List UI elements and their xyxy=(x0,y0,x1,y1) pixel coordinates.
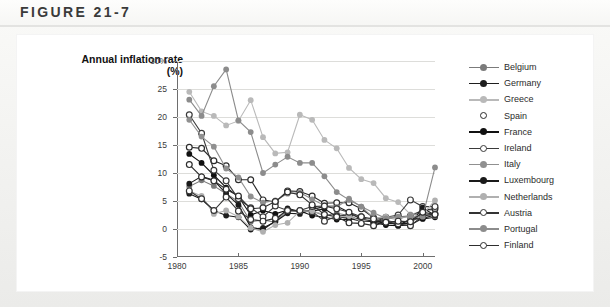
data-point xyxy=(371,210,377,216)
legend-dot xyxy=(480,80,487,87)
legend-item-france[interactable]: France xyxy=(469,124,589,140)
data-point xyxy=(322,137,328,143)
legend-marker-icon xyxy=(469,93,499,105)
data-point xyxy=(186,181,192,187)
data-point xyxy=(334,145,340,151)
legend-label: Germany xyxy=(504,78,541,88)
legend-dot xyxy=(480,209,487,216)
legend-item-finland[interactable]: Finland xyxy=(469,237,589,253)
data-point xyxy=(199,174,205,180)
data-point xyxy=(285,154,291,160)
legend-marker-icon xyxy=(469,207,499,219)
data-point xyxy=(432,212,438,218)
data-point xyxy=(346,209,352,215)
legend-label: Spain xyxy=(504,111,527,121)
data-point xyxy=(285,208,291,214)
legend-label: Greece xyxy=(504,94,534,104)
legend-marker-icon xyxy=(469,174,499,186)
data-point xyxy=(236,202,242,208)
data-point xyxy=(186,117,192,123)
data-point xyxy=(309,202,315,208)
y-tick-label: 20 xyxy=(137,112,167,122)
data-point xyxy=(309,160,315,166)
legend-marker-icon xyxy=(469,110,499,122)
data-point xyxy=(260,170,266,176)
plot-area: 30%2520151050-5 19801985199019952000 xyxy=(177,61,435,257)
data-point xyxy=(322,203,328,209)
legend-marker-icon xyxy=(469,158,499,170)
data-point xyxy=(432,198,438,204)
data-point xyxy=(358,214,364,220)
y-tick-label: 15 xyxy=(137,140,167,150)
data-series-layer xyxy=(177,61,435,257)
legend-label: Portugal xyxy=(504,224,538,234)
data-point xyxy=(322,212,328,218)
legend-item-ireland[interactable]: Ireland xyxy=(469,140,589,156)
legend-marker-icon xyxy=(469,126,499,138)
data-point xyxy=(260,218,266,224)
legend-item-luxembourg[interactable]: Luxembourg xyxy=(469,172,589,188)
data-point xyxy=(211,83,217,89)
data-point xyxy=(236,193,242,199)
legend-item-portugal[interactable]: Portugal xyxy=(469,221,589,237)
axis-title-line1: Annual inflation rate xyxy=(81,53,183,65)
data-point xyxy=(272,222,278,228)
legend-item-netherlands[interactable]: Netherlands xyxy=(469,189,589,205)
legend-dot xyxy=(480,193,487,200)
data-point xyxy=(211,113,217,119)
data-point xyxy=(223,166,229,172)
data-point xyxy=(260,229,266,235)
data-point xyxy=(236,208,242,214)
data-point xyxy=(248,206,254,212)
data-point xyxy=(199,145,205,151)
data-point xyxy=(432,204,438,210)
legend-label: France xyxy=(504,127,532,137)
header-divider xyxy=(0,25,610,27)
data-point xyxy=(420,209,426,215)
data-point xyxy=(248,97,254,103)
legend-marker-icon xyxy=(469,223,499,235)
data-point xyxy=(272,162,278,168)
data-point xyxy=(199,134,205,140)
legend-dot xyxy=(480,177,487,184)
data-point xyxy=(408,219,414,225)
legend-item-spain[interactable]: Spain xyxy=(469,108,589,124)
figure-frame: FIGURE 21-7 Annual inflation rate (%) 30… xyxy=(0,0,610,307)
data-point xyxy=(371,180,377,186)
legend-item-germany[interactable]: Germany xyxy=(469,75,589,91)
data-point xyxy=(285,189,291,195)
data-point xyxy=(358,221,364,227)
data-point xyxy=(272,215,278,221)
data-point xyxy=(322,218,328,224)
data-point xyxy=(248,225,254,231)
y-tick-label: 5 xyxy=(137,196,167,206)
data-point xyxy=(223,178,229,184)
legend-marker-icon xyxy=(469,239,499,251)
data-point xyxy=(186,144,192,150)
y-tick-mark xyxy=(173,257,177,258)
data-point xyxy=(334,206,340,212)
data-point xyxy=(285,220,291,226)
data-point xyxy=(248,217,254,223)
legend-dot xyxy=(480,161,487,168)
data-point xyxy=(358,176,364,182)
legend-item-greece[interactable]: Greece xyxy=(469,91,589,107)
data-point xyxy=(346,220,352,226)
legend-dot xyxy=(480,112,487,119)
data-point xyxy=(199,160,205,166)
legend-label: Finland xyxy=(504,240,534,250)
legend-item-belgium[interactable]: Belgium xyxy=(469,59,589,75)
data-point xyxy=(260,205,266,211)
data-point xyxy=(346,165,352,171)
x-tick-label: 2000 xyxy=(403,261,443,271)
data-point xyxy=(211,144,217,150)
data-point xyxy=(309,196,315,202)
legend-dot xyxy=(480,225,487,232)
legend-item-austria[interactable]: Austria xyxy=(469,205,589,221)
legend-dot xyxy=(480,64,487,71)
legend-label: Netherlands xyxy=(504,192,553,202)
y-tick-label: 10 xyxy=(137,168,167,178)
data-point xyxy=(223,123,229,129)
figure-header: FIGURE 21-7 xyxy=(0,0,610,26)
legend-item-italy[interactable]: Italy xyxy=(469,156,589,172)
